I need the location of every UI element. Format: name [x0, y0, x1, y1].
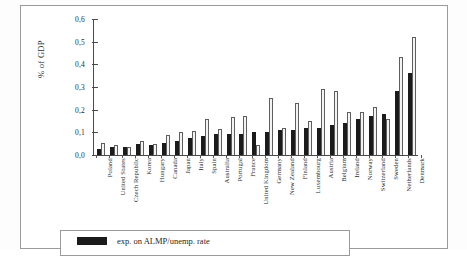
x-category-label: Norway: [366, 158, 373, 180]
bar-series-container: [94, 19, 418, 155]
bar-series-b: [153, 144, 157, 155]
bar-series-b: [243, 116, 247, 155]
x-category-label: Canada: [171, 158, 178, 179]
bar-series-b: [399, 57, 403, 155]
bar-group: [330, 19, 338, 155]
x-category-label: Italy: [197, 158, 204, 171]
bar-group: [265, 19, 273, 155]
x-category-label: Ireland: [353, 158, 360, 178]
bar-series-b: [101, 143, 105, 155]
x-category-label: Australia: [223, 158, 230, 184]
bar-group: [304, 19, 312, 155]
y-tick-label: 0,3: [75, 83, 85, 92]
bar-group: [408, 19, 416, 155]
legend-swatch-icon: [77, 237, 107, 245]
x-category-label: Japan: [184, 158, 191, 174]
bar-series-b: [282, 128, 286, 155]
bar-series-b: [127, 147, 131, 155]
y-tick-label: 0,0: [75, 151, 85, 160]
bar-group: [136, 19, 144, 155]
bar-series-b: [166, 135, 170, 155]
x-category-label: Spain: [210, 158, 217, 174]
y-axis-title: % of GDP: [36, 40, 46, 78]
x-category-label: Poland: [106, 158, 113, 177]
bar-series-b: [269, 98, 273, 155]
x-category-label: France: [249, 158, 256, 177]
x-category-label: Netherlands: [405, 158, 412, 192]
bar-series-b: [192, 131, 196, 155]
legend-label: exp. on ALMP/unemp. rate: [117, 236, 210, 246]
x-category-label: New Zealand: [288, 158, 295, 195]
bar-group: [291, 19, 299, 155]
bar-series-b: [321, 89, 325, 155]
y-tick-label: 0,5: [75, 37, 85, 46]
bar-series-b: [231, 117, 235, 155]
bar-group: [227, 19, 235, 155]
bar-group: [201, 19, 209, 155]
x-axis-category-labels: PolandUnited StatesCzech RepublicKoreaHu…: [94, 158, 419, 220]
x-category-label: Finland: [301, 158, 308, 179]
y-tick-label: 0,2: [75, 105, 85, 114]
x-category-label: Hungary: [158, 158, 165, 182]
y-tick-label: 0,1: [75, 128, 85, 137]
bar-group: [382, 19, 390, 155]
plot-area: 0,00,10,20,30,40,50,6: [93, 19, 418, 155]
bar-series-b: [114, 145, 118, 155]
bar-series-b: [308, 121, 312, 155]
bar-series-b: [256, 145, 260, 155]
bar-group: [214, 19, 222, 155]
bar-series-b: [412, 37, 416, 155]
bar-series-b: [179, 132, 183, 155]
bar-group: [149, 19, 157, 155]
bar-series-b: [295, 103, 299, 155]
bar-group: [343, 19, 351, 155]
chart-legend: exp. on ALMP/unemp. rate: [60, 230, 350, 256]
bar-group: [395, 19, 403, 155]
bar-group: [239, 19, 247, 155]
y-tick: [92, 155, 98, 156]
bar-group: [356, 19, 364, 155]
y-tick-label: 0,4: [75, 60, 85, 69]
bar-group: [278, 19, 286, 155]
bar-group: [188, 19, 196, 155]
x-category-label: Korea: [145, 158, 152, 175]
x-category-label: Portugal: [236, 158, 243, 182]
bar-group: [317, 19, 325, 155]
bar-series-b: [347, 112, 351, 155]
bar-series-b: [140, 141, 144, 155]
x-category-label: Belgium: [340, 158, 347, 182]
bar-group: [162, 19, 170, 155]
bar-group: [252, 19, 260, 155]
x-category-label: Czech Republic: [132, 158, 139, 202]
x-category-label: Denmark: [418, 158, 425, 184]
x-category-label: Sweden: [392, 158, 399, 180]
bar-group: [369, 19, 377, 155]
bar-group: [175, 19, 183, 155]
x-category-label: Luxembourg: [314, 158, 321, 193]
bar-series-b: [360, 112, 364, 155]
x-category-label: United Kingdom: [262, 158, 269, 205]
bar-series-b: [218, 129, 222, 155]
bar-group: [97, 19, 105, 155]
legend-entry: exp. on ALMP/unemp. rate: [77, 236, 210, 246]
y-tick-label: 0,6: [75, 15, 85, 24]
bar-group: [110, 19, 118, 155]
x-category-label: Switzerland: [379, 158, 386, 191]
x-category-label: Austria: [327, 158, 334, 178]
bar-series-b: [334, 91, 338, 155]
bar-series-b: [205, 119, 209, 155]
x-category-label: Germany: [275, 158, 282, 184]
bar-series-b: [373, 107, 377, 155]
x-category-label: United States: [119, 158, 126, 195]
bar-series-b: [386, 119, 390, 155]
bar-group: [123, 19, 131, 155]
